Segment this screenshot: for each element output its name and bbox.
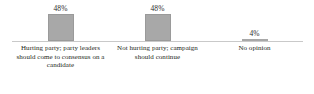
category-label-2: Not hurting party; campaign should conti… — [112, 44, 204, 61]
bar-chart: 48% Hurting party; party leaders should … — [0, 0, 314, 94]
bar-value-label-1: 48% — [53, 4, 67, 13]
bar-columns: 48% Hurting party; party leaders should … — [12, 0, 303, 94]
bar-1 — [48, 14, 74, 41]
bar-area-1: 48% — [12, 0, 109, 41]
bar-column-3: 4% No opinion — [206, 0, 303, 94]
bar-value-label-2: 48% — [150, 4, 164, 13]
bar-2 — [145, 14, 171, 41]
category-label-3: No opinion — [209, 44, 301, 53]
category-label-1: Hurting party; party leaders should come… — [15, 44, 107, 70]
bar-column-2: 48% Not hurting party; campaign should c… — [109, 0, 206, 94]
bar-value-label-3: 4% — [249, 29, 259, 38]
bar-area-2: 48% — [109, 0, 206, 41]
bar-area-3: 4% — [206, 0, 303, 41]
bar-3 — [242, 39, 268, 41]
bar-column-1: 48% Hurting party; party leaders should … — [12, 0, 109, 94]
